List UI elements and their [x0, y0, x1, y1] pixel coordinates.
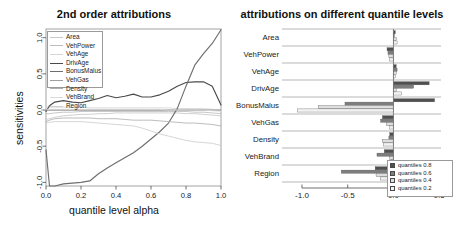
bar-vehpower-3: [390, 58, 394, 61]
category-label-bonusmalus: BonusMalus: [236, 101, 279, 110]
legend-color-swatch-icon: [390, 186, 395, 191]
legend-label: quantiles 0.4: [398, 177, 431, 185]
legend-line-swatch-icon: [50, 88, 63, 89]
left-chart-xlabel: quantile level alpha: [0, 204, 228, 216]
bar-vehgas-0: [382, 116, 393, 119]
bar-vehage-2: [393, 72, 396, 75]
legend-line-swatch-icon: [50, 80, 63, 81]
bar-vehbrand-1: [377, 153, 393, 156]
category-label-vehbrand: VehBrand: [245, 152, 279, 161]
bar-bonusmalus-0: [393, 99, 434, 102]
bar-bonusmalus-3: [297, 109, 393, 112]
x-tick-label: 0.8: [181, 191, 192, 200]
category-label-density: Density: [253, 135, 279, 144]
bar-vehgas-3: [390, 126, 394, 129]
legend-item-drivage: DrivAge: [48, 59, 102, 68]
y-tick-label: 0.0: [36, 105, 45, 116]
legend-item-quantile-2: quantiles 0.4: [388, 177, 452, 185]
y-tick-label: 0.5: [36, 69, 45, 80]
bar-vehpower-2: [389, 55, 394, 58]
left-chart-legend[interactable]: AreaVehPowerVehAgeDrivAgeBonusMalusVehGa…: [47, 31, 103, 88]
category-label-vehpower: VehPower: [243, 50, 279, 59]
bar-vehpower-0: [387, 48, 393, 51]
category-label-vehage: VehAge: [252, 67, 279, 76]
bar-vehgas-1: [381, 119, 394, 122]
legend-line-swatch-icon: [50, 37, 63, 38]
bar-drivage-0: [393, 82, 429, 85]
bar-bonusmalus-2: [318, 106, 393, 109]
line-series-region: [46, 122, 221, 146]
legend-item-vehpower: VehPower: [48, 42, 102, 51]
bar-drivage-2: [393, 89, 396, 92]
left-chart-panel: 2nd order attributions 0.00.20.40.60.81.…: [0, 0, 228, 225]
x-tick-label: 0.6: [146, 191, 157, 200]
legend-line-swatch-icon: [50, 71, 63, 72]
bar-vehgas-2: [386, 123, 393, 126]
bar-vehage-1: [393, 68, 397, 71]
legend-line-swatch-icon: [50, 54, 63, 55]
x-tick-label: -1.0: [295, 191, 309, 200]
legend-label: quantiles 0.6: [398, 170, 431, 178]
legend-item-vehbrand: VehBrand: [48, 93, 102, 102]
bar-vehage-0: [393, 65, 396, 68]
category-label-area: Area: [263, 33, 280, 42]
line-series-area: [46, 113, 221, 120]
legend-label: Area: [66, 33, 80, 42]
legend-label: quantiles 0.2: [398, 185, 431, 193]
legend-item-region: Region: [48, 102, 102, 111]
legend-item-vehgas: VehGas: [48, 76, 102, 85]
legend-label: quantiles 0.8: [398, 162, 431, 170]
left-chart-canvas: 0.00.20.40.60.81.01.00.50.0-0.5-1.0: [0, 0, 228, 225]
legend-item-area: Area: [48, 33, 102, 42]
left-chart-ylabel-wrap: sensitivities: [9, 91, 27, 145]
category-label-drivage: DrivAge: [251, 84, 279, 93]
legend-label: DrivAge: [66, 59, 89, 68]
bar-density-2: [382, 140, 393, 143]
right-chart-legend[interactable]: quantiles 0.8quantiles 0.6quantiles 0.4q…: [387, 160, 453, 197]
legend-item-density: Density: [48, 85, 102, 94]
x-tick-label: -0.5: [341, 191, 355, 200]
bar-region-1: [341, 170, 393, 173]
legend-line-swatch-icon: [50, 106, 63, 107]
legend-item-bonusmalus: BonusMalus: [48, 67, 102, 76]
bar-bonusmalus-1: [345, 102, 393, 105]
legend-label: Density: [66, 85, 87, 94]
figure-root: 2nd order attributions 0.00.20.40.60.81.…: [0, 0, 456, 225]
bar-density-0: [390, 133, 394, 136]
legend-color-swatch-icon: [390, 178, 395, 183]
legend-line-swatch-icon: [50, 45, 63, 46]
legend-label: VehBrand: [66, 93, 94, 102]
legend-label: Region: [66, 102, 86, 111]
legend-label: VehGas: [66, 76, 89, 85]
bar-vehbrand-0: [384, 150, 393, 153]
category-label-region: Region: [254, 169, 279, 178]
legend-item-quantile-1: quantiles 0.6: [388, 170, 452, 178]
y-tick-label: 1.0: [36, 32, 45, 43]
left-chart-title: 2nd order attributions: [0, 8, 228, 20]
bar-area-2: [393, 38, 396, 41]
legend-label: VehPower: [66, 42, 95, 51]
legend-item-quantile-3: quantiles 0.2: [388, 185, 452, 193]
right-chart-panel: attributions on different quantile level…: [228, 0, 456, 225]
x-tick-label: 0.4: [111, 191, 122, 200]
bar-vehpower-1: [388, 51, 393, 54]
legend-line-swatch-icon: [50, 63, 63, 64]
bar-drivage-3: [393, 92, 401, 95]
legend-item-vehage: VehAge: [48, 50, 102, 59]
x-tick-label: 0.0: [41, 191, 52, 200]
category-label-vehgas: VehGas: [251, 118, 279, 127]
y-tick-label: -1.0: [36, 176, 45, 189]
legend-item-quantile-0: quantiles 0.8: [388, 162, 452, 170]
bar-area-3: [393, 41, 397, 44]
right-chart-title: attributions on different quantile level…: [228, 8, 456, 20]
y-tick-label: -0.5: [36, 140, 45, 153]
x-tick-label: 0.2: [76, 191, 87, 200]
legend-label: BonusMalus: [66, 67, 101, 76]
legend-color-swatch-icon: [390, 163, 395, 168]
bar-drivage-1: [393, 85, 413, 88]
bar-density-3: [383, 143, 393, 146]
legend-label: VehAge: [66, 50, 88, 59]
bar-density-1: [389, 136, 394, 139]
x-tick-label: 1.0: [216, 191, 227, 200]
legend-color-swatch-icon: [390, 171, 395, 176]
